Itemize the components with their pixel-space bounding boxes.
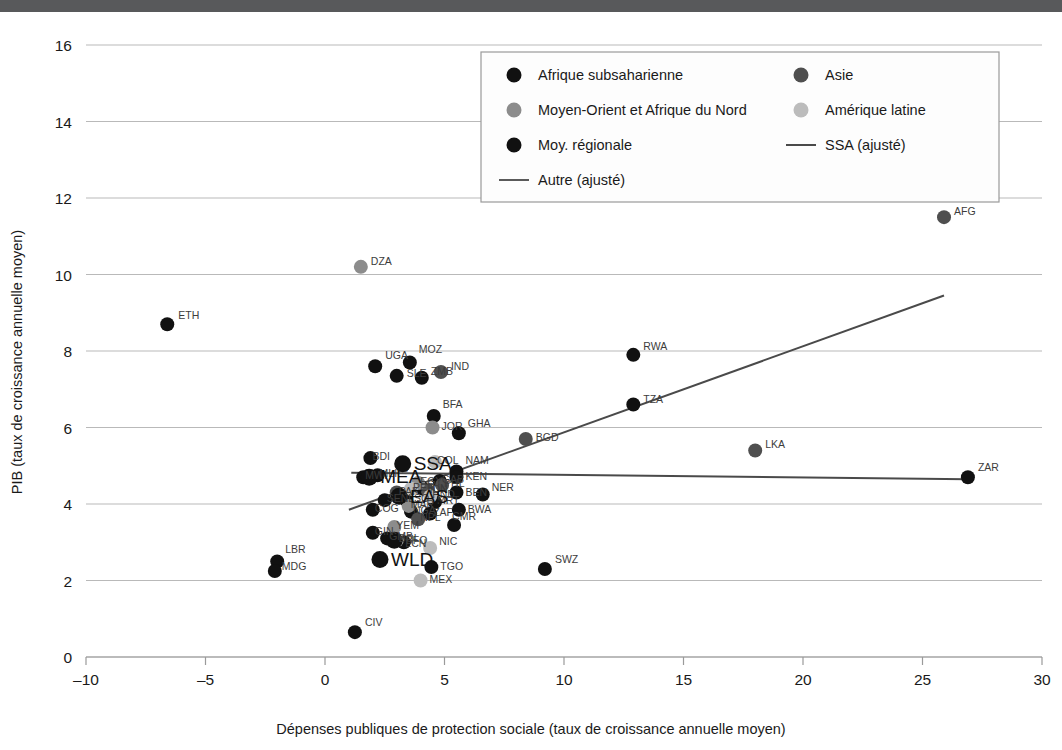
point-label-gha: GHA <box>468 417 491 429</box>
legend: Afrique subsaharienneAsieMoyen-Orient et… <box>481 52 999 202</box>
point-label-zar: ZAR <box>978 461 999 473</box>
point-label-cog: COG <box>375 502 399 514</box>
point-labels-group: ETHUGASLEMOZZMBBFAGHARWATZAZARSWZCIVLBRM… <box>178 205 999 628</box>
x-tick-label: 10 <box>555 671 573 688</box>
data-point-civ <box>348 625 362 639</box>
data-point-dza <box>354 260 368 274</box>
x-tick-label: 15 <box>675 671 692 688</box>
point-label-lka: LKA <box>765 438 785 450</box>
point-label-ken: KEN <box>465 470 487 482</box>
legend-label-3: Amérique latine <box>825 102 926 118</box>
point-label-eth: ETH <box>178 309 199 321</box>
data-point-rwa <box>626 348 640 362</box>
point-label-nam: NAM <box>465 454 488 466</box>
point-label-swz: SWZ <box>555 553 579 565</box>
data-point-mex <box>414 574 428 588</box>
legend-label-4: Moy. régionale <box>538 137 632 153</box>
x-tick-label: 20 <box>794 671 812 688</box>
point-label-sle: SLE <box>407 367 427 379</box>
point-label-jor: JOR <box>442 420 463 432</box>
y-tick-label: 6 <box>63 420 72 437</box>
point-label-bdi: BDI <box>372 450 390 462</box>
point-label-nic: NIC <box>439 535 458 547</box>
x-tick-label: 25 <box>914 671 931 688</box>
data-point-bgd <box>519 432 533 446</box>
y-axis-ticks-group: 0246810121416 <box>55 37 73 666</box>
chart-canvas: 0246810121416 –10–5051015202530 ETHUGASL… <box>0 12 1062 750</box>
point-label-tgo: TGO <box>440 560 463 572</box>
legend-label-5: SSA (ajusté) <box>825 137 906 153</box>
point-label-zmb: ZMB <box>431 365 453 377</box>
legend-marker-1 <box>794 68 809 83</box>
point-label-dza: DZA <box>371 255 392 267</box>
data-point-swz <box>538 562 552 576</box>
y-tick-label: 10 <box>55 267 73 284</box>
point-label-yem: YEM <box>396 519 419 531</box>
legend-marker-4 <box>507 138 522 153</box>
data-point-afg <box>937 210 951 224</box>
x-tick-label: –10 <box>73 671 99 688</box>
data-point-tza <box>626 398 640 412</box>
point-label-ner: NER <box>492 481 515 493</box>
point-label-bgd: BGD <box>536 431 559 443</box>
x-tick-label: 5 <box>440 671 449 688</box>
point-label-cmr: CMR <box>452 510 476 522</box>
x-tick-label: 30 <box>1033 671 1051 688</box>
y-tick-label: 14 <box>55 114 73 131</box>
y-tick-label: 12 <box>55 190 72 207</box>
point-label-bfa: BFA <box>443 398 463 410</box>
point-label-wld: WLD <box>391 549 433 570</box>
legend-marker-2 <box>507 103 522 118</box>
legend-label-0: Afrique subsaharienne <box>538 67 683 83</box>
point-label-mex: MEX <box>430 573 453 585</box>
point-label-lbr: LBR <box>285 543 306 555</box>
point-label-lcn: LCN <box>405 537 426 549</box>
point-label-mdg: MDG <box>282 560 307 572</box>
y-tick-label: 8 <box>63 343 72 360</box>
point-label-eas: EAS <box>410 486 448 507</box>
data-point-lka <box>748 443 762 457</box>
point-label-ben: BEN <box>465 486 487 498</box>
data-point-mdg <box>268 564 282 578</box>
y-tick-label: 2 <box>63 573 72 590</box>
point-label-npl: NPL <box>420 511 441 523</box>
legend-marker-3 <box>794 103 809 118</box>
legend-label-6: Autre (ajusté) <box>538 172 625 188</box>
x-tick-label: –5 <box>197 671 214 688</box>
point-label-tza: TZA <box>643 393 663 405</box>
data-point-sle <box>390 369 404 383</box>
point-label-moz: MOZ <box>419 343 443 355</box>
point-label-ind: IND <box>451 360 470 372</box>
data-point-jor <box>426 421 440 435</box>
data-point-eth <box>160 317 174 331</box>
y-axis-title: PIB (taux de croissance annuelle moyen) <box>9 230 25 494</box>
x-tick-label: 0 <box>321 671 330 688</box>
point-label-civ: CIV <box>365 616 383 628</box>
scatter-chart-figure: 0246810121416 –10–5051015202530 ETHUGASL… <box>0 12 1062 750</box>
y-tick-label: 16 <box>55 37 72 54</box>
point-label-mea: MEA <box>380 466 422 487</box>
data-point-wld <box>371 551 388 568</box>
y-tick-label: 4 <box>63 496 72 513</box>
x-axis-title: Dépenses publiques de protection sociale… <box>276 721 785 737</box>
point-label-rwa: RWA <box>643 340 667 352</box>
legend-label-2: Moyen-Orient et Afrique du Nord <box>538 102 747 118</box>
data-point-uga <box>368 359 382 373</box>
point-label-afg: AFG <box>954 205 976 217</box>
y-tick-label: 0 <box>63 649 72 666</box>
legend-marker-0 <box>507 68 522 83</box>
top-banner-bar <box>0 0 1062 12</box>
data-point-zar <box>961 470 975 484</box>
x-axis-group: –10–5051015202530 <box>73 657 1051 688</box>
legend-label-1: Asie <box>825 67 853 83</box>
point-label-uga: UGA <box>385 349 408 361</box>
